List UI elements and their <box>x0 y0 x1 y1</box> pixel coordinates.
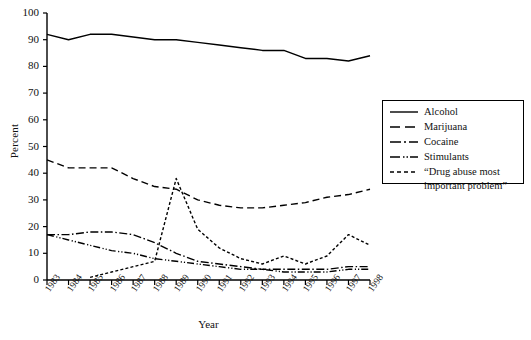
y-tick-label: 70 <box>9 87 39 98</box>
series-line-marijuana <box>47 160 370 208</box>
legend-item-stimulants: Stimulants <box>389 150 523 165</box>
y-tick-label: 20 <box>9 221 39 232</box>
legend-label-alcohol: Alcohol <box>424 105 458 119</box>
y-tick-label: 100 <box>9 7 39 18</box>
y-tick-label: 60 <box>9 114 39 125</box>
y-tick-label: 80 <box>9 60 39 71</box>
chart-root: Percent Year 0102030405060708090100 1983… <box>0 0 531 340</box>
y-tick-label: 40 <box>9 167 39 178</box>
legend-label-line1: “Drug abuse most <box>424 166 500 177</box>
legend-label-stimulants: Stimulants <box>424 150 469 164</box>
series-line-cocaine <box>47 232 370 269</box>
y-tick-label: 50 <box>9 141 39 152</box>
legend-swatch-dashed <box>389 121 419 133</box>
data-series-group <box>47 34 370 277</box>
series-line-drug-abuse-most-important-problem <box>90 179 370 278</box>
legend-item-drug-abuse-problem: “Drug abuse most important problem” <box>389 165 523 195</box>
legend-label-drug-abuse-problem: “Drug abuse most important problem” <box>424 165 522 193</box>
legend-label-marijuana: Marijuana <box>424 120 467 134</box>
legend-label-line2: important problem” <box>424 180 507 191</box>
legend-swatch-fine-dashed <box>389 166 419 178</box>
line-chart: Percent Year 0102030405060708090100 1983… <box>0 0 531 340</box>
y-tick-label: 30 <box>9 194 39 205</box>
legend-item-cocaine: Cocaine <box>389 135 523 150</box>
y-tick-label: 90 <box>9 34 39 45</box>
legend-item-alcohol: Alcohol <box>389 105 523 120</box>
legend-item-marijuana: Marijuana <box>389 120 523 135</box>
series-line-alcohol <box>47 34 370 61</box>
x-axis-title: Year <box>47 318 370 330</box>
legend-swatch-dash-dot-dot <box>389 151 419 163</box>
chart-legend: Alcohol Marijuana Cocaine Stimulants “Dr… <box>382 100 524 184</box>
y-tick-label: 0 <box>9 274 39 285</box>
legend-label-cocaine: Cocaine <box>424 135 458 149</box>
y-tick-label: 10 <box>9 247 39 258</box>
legend-swatch-solid <box>389 106 419 118</box>
series-line-stimulants <box>47 235 370 272</box>
legend-swatch-dash-dot <box>389 136 419 148</box>
